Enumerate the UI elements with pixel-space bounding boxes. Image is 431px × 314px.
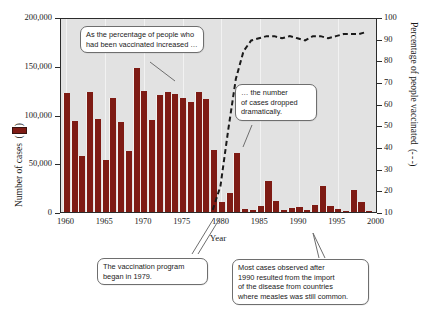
imported-cases-callout: Most cases observed after 1990 resulted … <box>232 259 369 305</box>
leader-bottom-right-b <box>313 233 325 258</box>
callout-line: of the disease from countries <box>238 282 363 292</box>
callout-line: As the percentage of people who <box>86 30 198 40</box>
measles-cases-vaccination-chart: 050,000100,000150,000200,000 Number of c… <box>0 0 431 314</box>
callout-line: 1990 resulted from the import <box>238 273 363 283</box>
callout-line: had been vaccinated increased … <box>86 40 198 50</box>
leader-bottom-left-b <box>198 218 220 254</box>
callout-line: where measles was still common. <box>238 292 363 302</box>
cases-dropped-callout: … the number of cases dropped dramatical… <box>235 84 317 121</box>
callout-line: of cases dropped <box>241 98 311 108</box>
callout-line: dramatically. <box>241 107 311 117</box>
callout-line: began in 1979. <box>103 272 202 282</box>
leader-middle-right <box>243 125 252 147</box>
leader-top-left <box>150 62 175 81</box>
leader-bottom-left-a <box>192 218 214 254</box>
callout-line: The vaccination program <box>103 262 202 272</box>
vaccination-increase-callout: As the percentage of people who had been… <box>80 26 204 53</box>
leader-bottom-right-a <box>313 233 319 258</box>
callout-line: Most cases observed after <box>238 263 363 273</box>
callout-line: … the number <box>241 88 311 98</box>
program-began-callout: The vaccination program began in 1979. <box>97 258 208 285</box>
